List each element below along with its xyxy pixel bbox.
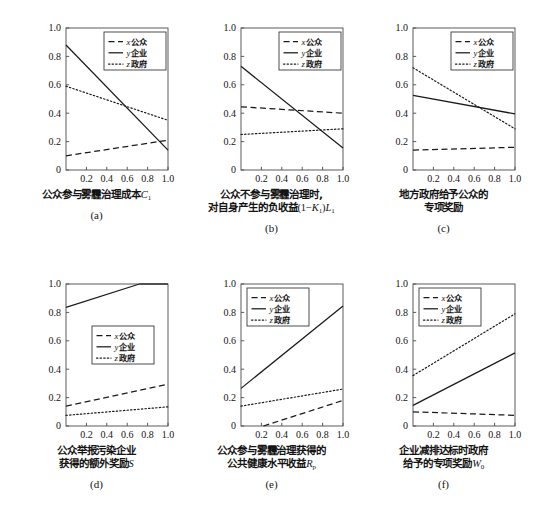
y-tick-label: 0.8	[396, 307, 409, 318]
legend-label-y: y企业	[114, 342, 136, 352]
y-tick-label: 0.2	[224, 136, 237, 147]
y-tick-label: 0.6	[49, 79, 62, 90]
subplot-a: 00.20.40.60.81.00.20.40.60.81.0x公众y企业z政府…	[8, 2, 185, 261]
legend-label-y: y企业	[269, 304, 291, 314]
y-tick-label: 1.0	[224, 22, 237, 33]
y-tick-label: 0	[56, 164, 61, 175]
chart-d: 00.20.40.60.81.00.20.40.60.81.0x公众y企业z政府	[8, 258, 185, 458]
panel-letter-a: (a)	[8, 209, 185, 221]
series-line-y	[413, 353, 515, 406]
xlabel-line: 对自身产生的负收益(1−K1)L1	[183, 201, 360, 216]
x-tick-label: 0.8	[488, 173, 501, 184]
x-tick-label: 0.2	[427, 173, 440, 184]
x-tick-label: 1.0	[162, 429, 175, 440]
chart-a: 00.20.40.60.81.00.20.40.60.81.0x公众y企业z政府	[8, 2, 185, 202]
y-tick-label: 0.2	[396, 392, 409, 403]
y-tick-label: 0.4	[396, 108, 409, 119]
xlabel-b: 公众不参与雾霾治理时,对自身产生的负收益(1−K1)L1	[183, 188, 360, 216]
chart-f: 00.20.40.60.81.00.20.40.60.81.0x公众y企业z政府	[355, 258, 532, 458]
legend-f: x公众y企业z政府	[419, 288, 481, 326]
xlabel-line: 公众参与雾霾治理获得的	[183, 444, 360, 457]
legend-b: x公众y企业z政府	[279, 32, 341, 70]
xlabel-line: 企业减排达标时政府	[355, 444, 532, 457]
subplot-d: 00.20.40.60.81.00.20.40.60.81.0x公众y企业z政府…	[8, 258, 185, 517]
series-line-z	[66, 407, 168, 416]
y-tick-label: 0.6	[396, 79, 409, 90]
y-tick-label: 0.8	[49, 307, 62, 318]
legend-e: x公众y企业z政府	[247, 288, 309, 326]
series-line-x	[66, 140, 168, 156]
y-tick-label: 1.0	[49, 22, 62, 33]
chart-e: 00.20.40.60.81.00.20.40.60.81.0x公众y企业z政府	[183, 258, 360, 458]
legend-label-y: y企业	[473, 48, 495, 58]
legend-label-y: y企业	[301, 48, 323, 58]
xlabel-f: 企业减排达标时政府给予的专项奖励W0	[355, 444, 532, 472]
x-tick-label: 0.6	[468, 173, 481, 184]
x-tick-label: 0.8	[488, 429, 501, 440]
legend-a: x公众y企业z政府	[104, 32, 166, 70]
x-tick-label: 0.6	[121, 429, 134, 440]
legend-label-x: x公众	[126, 37, 149, 47]
x-tick-label: 1.0	[509, 429, 522, 440]
legend-c: x公众y企业z政府	[451, 32, 513, 70]
series-line-z	[241, 129, 343, 135]
legend-label-y: y企业	[126, 48, 148, 58]
panel-letter-e: (e)	[183, 478, 360, 490]
y-tick-label: 0.6	[224, 335, 237, 346]
chart-b: 00.20.40.60.81.00.20.40.60.81.0x公众y企业z政府	[183, 2, 360, 202]
y-tick-label: 0.6	[224, 79, 237, 90]
y-tick-label: 0.2	[49, 136, 62, 147]
y-tick-label: 0.6	[49, 335, 62, 346]
legend-label-x: x公众	[269, 293, 292, 303]
figure-canvas: 00.20.40.60.81.00.20.40.60.81.0x公众y企业z政府…	[0, 0, 533, 519]
legend-label-z: z政府	[114, 353, 135, 363]
xlabel-d: 公众举报污染企业获得的额外奖励S	[8, 444, 185, 470]
y-tick-label: 1.0	[224, 278, 237, 289]
x-tick-label: 0.4	[101, 173, 114, 184]
x-tick-label: 0.8	[141, 173, 154, 184]
y-tick-label: 1.0	[396, 22, 409, 33]
subplot-f: 00.20.40.60.81.00.20.40.60.81.0x公众y企业z政府…	[355, 258, 532, 517]
x-tick-label: 0.6	[468, 429, 481, 440]
x-tick-label: 0.6	[296, 173, 309, 184]
y-tick-label: 0.6	[396, 335, 409, 346]
x-tick-label: 0.2	[80, 429, 93, 440]
plot-area-f: 00.20.40.60.81.00.20.40.60.81.0x公众y企业z政府	[355, 258, 532, 458]
x-tick-label: 0.4	[276, 173, 289, 184]
y-tick-label: 1.0	[49, 278, 62, 289]
y-tick-label: 0.2	[224, 392, 237, 403]
subplot-c: 00.20.40.60.81.00.20.40.60.81.0x公众y企业z政府…	[355, 2, 532, 261]
y-tick-label: 0.2	[396, 136, 409, 147]
xlabel-line: 公众举报污染企业	[8, 444, 185, 457]
x-tick-label: 0.6	[296, 429, 309, 440]
legend-label-z: z政府	[126, 59, 147, 69]
y-tick-label: 1.0	[396, 278, 409, 289]
y-tick-label: 0.4	[49, 364, 62, 375]
legend-d: x公众y企业z政府	[92, 326, 154, 364]
x-tick-label: 0.2	[255, 429, 268, 440]
y-tick-label: 0	[403, 420, 408, 431]
x-tick-label: 0.8	[316, 173, 329, 184]
y-tick-label: 0.2	[49, 392, 62, 403]
series-line-y	[66, 284, 139, 307]
x-tick-label: 0.6	[121, 173, 134, 184]
plot-area-c: 00.20.40.60.81.00.20.40.60.81.0x公众y企业z政府	[355, 2, 532, 202]
y-tick-label: 0.4	[49, 108, 62, 119]
x-tick-label: 1.0	[509, 173, 522, 184]
series-line-x	[263, 400, 343, 426]
subplot-e: 00.20.40.60.81.00.20.40.60.81.0x公众y企业z政府…	[183, 258, 360, 517]
xlabel-line: 公众参与雾霾治理成本C1	[8, 188, 185, 203]
legend-label-z: z政府	[473, 59, 494, 69]
y-tick-label: 0.8	[49, 51, 62, 62]
y-tick-label: 0	[56, 420, 61, 431]
plot-area-e: 00.20.40.60.81.00.20.40.60.81.0x公众y企业z政府	[183, 258, 360, 458]
series-line-z	[241, 389, 343, 406]
xlabel-c: 地方政府给予公众的专项奖励	[355, 188, 532, 214]
legend-label-x: x公众	[473, 37, 496, 47]
panel-letter-c: (c)	[355, 222, 532, 234]
x-tick-label: 0.4	[276, 429, 289, 440]
x-tick-label: 0.4	[101, 429, 114, 440]
plot-area-b: 00.20.40.60.81.00.20.40.60.81.0x公众y企业z政府	[183, 2, 360, 202]
legend-label-x: x公众	[301, 37, 324, 47]
legend-label-z: z政府	[301, 59, 322, 69]
